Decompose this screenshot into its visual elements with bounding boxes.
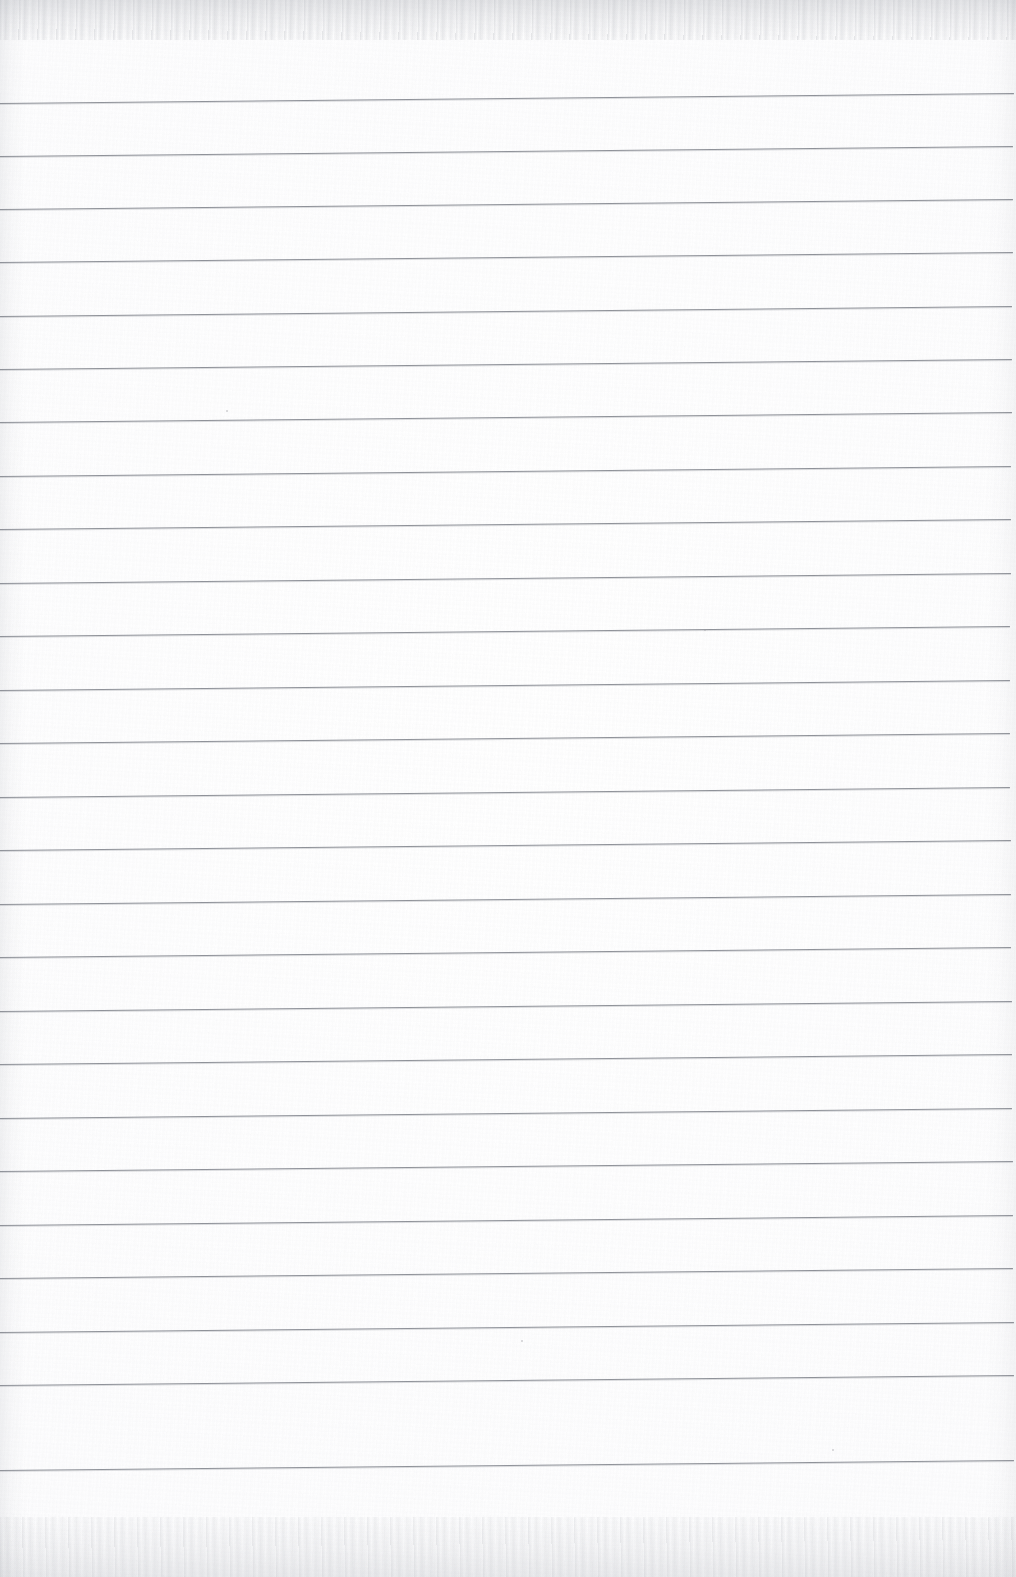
scan-speck: [226, 410, 228, 412]
scan-speck: [704, 629, 706, 631]
paper-background: [0, 0, 1016, 1577]
scanned-page: [0, 0, 1016, 1577]
scan-speck: [521, 1340, 523, 1342]
scan-speck: [832, 1449, 834, 1451]
